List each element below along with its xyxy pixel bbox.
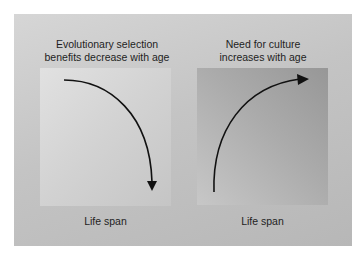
right-axis-label: Life span	[197, 215, 328, 227]
left-title-line-2: benefits decrease with age	[27, 51, 187, 64]
left-panel-title: Evolutionary selection benefits decrease…	[27, 38, 187, 63]
culture-need-box	[197, 68, 328, 205]
right-title-line-2: increases with age	[183, 51, 343, 64]
right-title-line-1: Need for culture	[183, 38, 343, 51]
selection-benefits-box	[40, 68, 171, 206]
left-axis-label: Life span	[40, 215, 171, 227]
right-panel-title: Need for culture increases with age	[183, 38, 343, 63]
left-title-line-1: Evolutionary selection	[27, 38, 187, 51]
